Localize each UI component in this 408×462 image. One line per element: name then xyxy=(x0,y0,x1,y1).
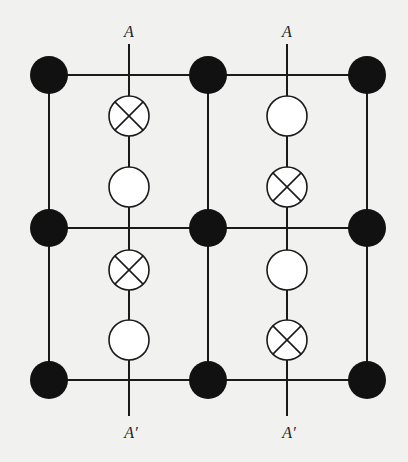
filled-node xyxy=(30,56,68,94)
label-a-top-right: A xyxy=(281,23,292,40)
lattice-diagram: A A A′ A′ xyxy=(0,0,408,462)
crossed-circle-icon xyxy=(109,250,149,290)
filled-node xyxy=(189,56,227,94)
filled-node xyxy=(348,209,386,247)
open-circle-icon xyxy=(267,250,307,290)
label-a-prime-bottom-left: A′ xyxy=(123,424,138,441)
filled-node xyxy=(30,361,68,399)
open-circle-icon xyxy=(267,96,307,136)
open-circle-icon xyxy=(109,320,149,360)
crossed-circle-icon xyxy=(109,96,149,136)
filled-node xyxy=(30,209,68,247)
filled-node xyxy=(189,209,227,247)
crossed-circle-icon xyxy=(267,167,307,207)
open-circle-icon xyxy=(109,167,149,207)
filled-node xyxy=(348,361,386,399)
crossed-circle-icon xyxy=(267,320,307,360)
filled-node xyxy=(189,361,227,399)
filled-node xyxy=(348,56,386,94)
label-a-top-left: A xyxy=(123,23,134,40)
label-a-prime-bottom-right: A′ xyxy=(281,424,296,441)
